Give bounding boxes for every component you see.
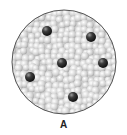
- solute-particle: [42, 26, 52, 36]
- solvent-particles: [7, 3, 126, 118]
- solute-particle: [25, 72, 35, 82]
- solute-particle: [68, 92, 78, 102]
- diagram-label: A: [0, 119, 127, 130]
- solute-particle: [98, 58, 108, 68]
- solute-particle: [57, 58, 67, 68]
- solute-particle: [86, 32, 96, 42]
- particle-diagram: [0, 0, 127, 135]
- container-circle: [7, 3, 126, 118]
